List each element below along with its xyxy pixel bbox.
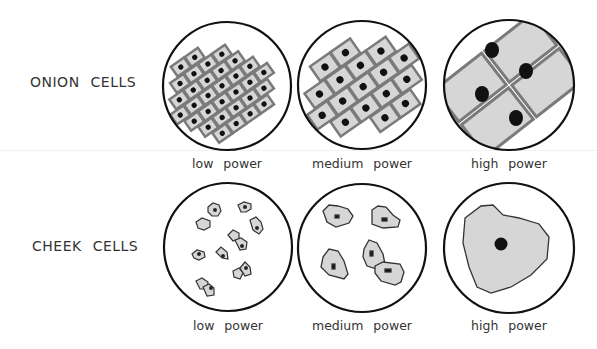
cheek-medium-power-circle bbox=[298, 184, 426, 312]
cheek-medium-power-field bbox=[321, 205, 404, 285]
onion-medium-power-field bbox=[285, 13, 440, 161]
onion-high-power-caption: high power bbox=[444, 156, 574, 171]
cheek-low-power-circle bbox=[164, 183, 292, 311]
cheek-medium-power-caption: medium power bbox=[297, 318, 427, 333]
onion-low-power-caption: low power bbox=[162, 156, 292, 171]
onion-high-power-field bbox=[434, 14, 583, 157]
cheek-low-power-caption: low power bbox=[163, 318, 293, 333]
onion-medium-power-caption: medium power bbox=[297, 156, 427, 171]
cheek-high-power-field bbox=[463, 205, 549, 293]
microscope-diagram bbox=[0, 0, 597, 349]
cheek-high-power-caption: high power bbox=[444, 318, 574, 333]
cheek-low-power-field bbox=[192, 202, 263, 296]
